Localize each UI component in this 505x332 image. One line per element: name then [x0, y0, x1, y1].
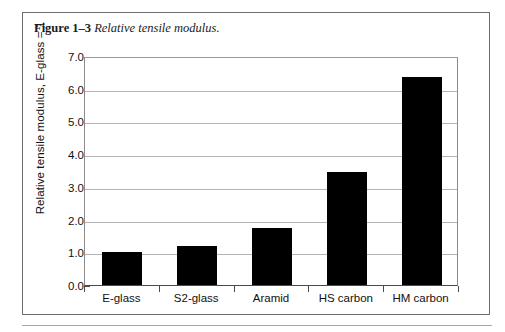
x-tick-label: Aramid	[229, 292, 313, 304]
y-tick-label: 6.0	[50, 84, 84, 96]
y-tick-label: 7.0	[50, 51, 84, 63]
x-axis-labels: E-glassS2-glassAramidHS carbonHM carbon	[84, 292, 458, 310]
plot-area	[84, 57, 458, 286]
x-tick-label: HS carbon	[304, 292, 388, 304]
bar	[327, 172, 367, 285]
bar	[402, 77, 442, 285]
y-tick-label: 0.0	[50, 280, 84, 292]
y-tick-label: 2.0	[50, 215, 84, 227]
page-rule	[22, 325, 492, 326]
y-axis-ticks: 0.01.02.03.04.05.06.07.0	[44, 57, 84, 286]
x-tick-label: HM carbon	[379, 292, 463, 304]
y-tick-label: 5.0	[50, 116, 84, 128]
bar-chart: Relative tensile modulus, E-glass = 1 0.…	[0, 0, 505, 332]
y-tick-label: 3.0	[50, 182, 84, 194]
bar	[252, 228, 292, 285]
y-tick-label: 4.0	[50, 149, 84, 161]
bar	[177, 246, 217, 285]
x-tick-label: E-glass	[79, 292, 163, 304]
x-tick-label: S2-glass	[154, 292, 238, 304]
bar	[102, 252, 142, 285]
y-tick-label: 1.0	[50, 247, 84, 259]
